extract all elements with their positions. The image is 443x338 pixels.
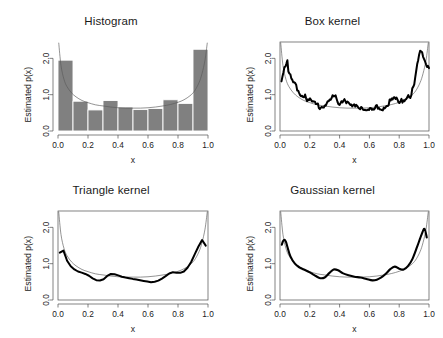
svg-text:0.6: 0.6 [142, 140, 154, 150]
svg-text:0.8: 0.8 [172, 140, 184, 150]
svg-text:0.0: 0.0 [274, 140, 286, 150]
svg-text:1.0: 1.0 [202, 309, 214, 319]
figure-grid: Histogram 0.00.20.40.60.81.00.01.02.0Est… [0, 0, 443, 338]
svg-text:0.4: 0.4 [112, 309, 124, 319]
svg-text:1.0: 1.0 [263, 89, 273, 101]
svg-text:0.0: 0.0 [41, 294, 51, 306]
svg-text:x: x [131, 155, 136, 165]
svg-text:0.0: 0.0 [52, 309, 64, 319]
svg-text:Estimated p(x): Estimated p(x) [245, 67, 255, 123]
svg-text:1.0: 1.0 [202, 140, 214, 150]
svg-text:0.2: 0.2 [304, 140, 316, 150]
svg-text:2.0: 2.0 [263, 221, 273, 233]
svg-text:0.4: 0.4 [334, 309, 346, 319]
svg-text:x: x [352, 324, 357, 334]
svg-text:0.6: 0.6 [142, 309, 154, 319]
svg-text:0.6: 0.6 [364, 309, 376, 319]
svg-text:1.0: 1.0 [423, 140, 435, 150]
panel-triangle-kernel: Triangle kernel 0.00.20.40.60.81.00.01.0… [0, 169, 222, 338]
svg-text:Estimated p(x): Estimated p(x) [23, 236, 33, 292]
svg-text:0.8: 0.8 [393, 309, 405, 319]
svg-text:1.0: 1.0 [263, 258, 273, 270]
svg-text:0.0: 0.0 [41, 125, 51, 137]
svg-text:0.0: 0.0 [263, 294, 273, 306]
plot-box-kernel: 0.00.20.40.60.81.00.01.02.0Estimated p(x… [222, 0, 443, 169]
svg-text:0.4: 0.4 [334, 140, 346, 150]
svg-text:0.8: 0.8 [172, 309, 184, 319]
svg-text:0.4: 0.4 [112, 140, 124, 150]
svg-text:0.0: 0.0 [52, 140, 64, 150]
plot-histogram: 0.00.20.40.60.81.00.01.02.0Estimated p(x… [0, 0, 222, 169]
svg-text:1.0: 1.0 [423, 309, 435, 319]
plot-gaussian-kernel: 0.00.20.40.60.81.00.01.02.0Estimated p(x… [222, 169, 443, 338]
svg-text:1.0: 1.0 [41, 89, 51, 101]
svg-text:Estimated p(x): Estimated p(x) [23, 67, 33, 123]
svg-text:0.0: 0.0 [263, 125, 273, 137]
panel-gaussian-kernel: Gaussian kernel 0.00.20.40.60.81.00.01.0… [222, 169, 443, 338]
svg-text:0.2: 0.2 [82, 309, 94, 319]
svg-text:0.6: 0.6 [364, 140, 376, 150]
panel-histogram: Histogram 0.00.20.40.60.81.00.01.02.0Est… [0, 0, 222, 169]
svg-text:x: x [131, 324, 136, 334]
svg-text:0.2: 0.2 [304, 309, 316, 319]
svg-text:1.0: 1.0 [41, 258, 51, 270]
svg-text:Estimated p(x): Estimated p(x) [245, 236, 255, 292]
plot-triangle-kernel: 0.00.20.40.60.81.00.01.02.0Estimated p(x… [0, 169, 222, 338]
svg-text:0.8: 0.8 [393, 140, 405, 150]
svg-text:2.0: 2.0 [41, 221, 51, 233]
svg-text:0.2: 0.2 [82, 140, 94, 150]
svg-text:0.0: 0.0 [274, 309, 286, 319]
panel-box-kernel: Box kernel 0.00.20.40.60.81.00.01.02.0Es… [222, 0, 443, 169]
svg-text:2.0: 2.0 [41, 52, 51, 64]
svg-text:x: x [352, 155, 357, 165]
svg-text:2.0: 2.0 [263, 52, 273, 64]
